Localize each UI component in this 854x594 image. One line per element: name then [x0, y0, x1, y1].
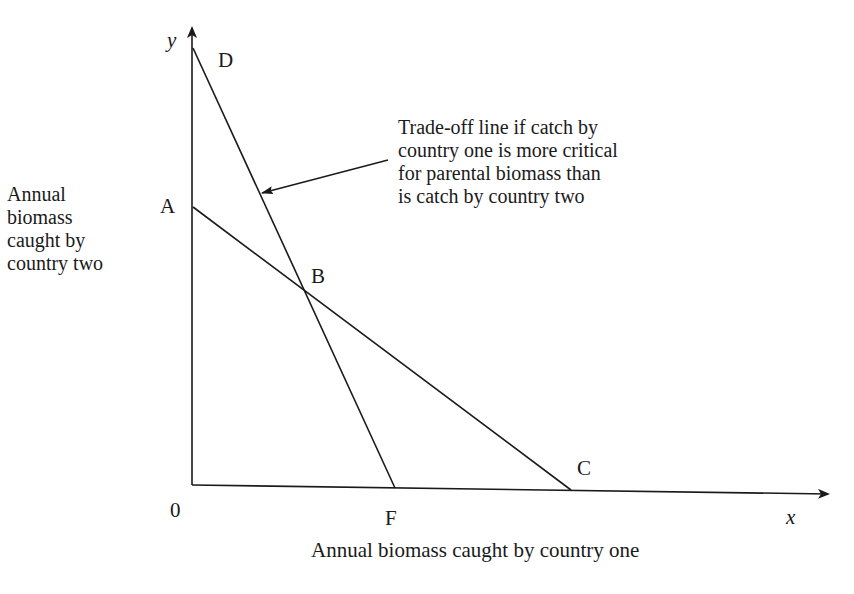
x-axis-symbol: x: [786, 507, 795, 528]
y-axis-title-line: country two: [7, 252, 103, 275]
line-ac: [193, 207, 571, 490]
origin-label: 0: [170, 500, 181, 521]
point-label-d: D: [218, 50, 233, 71]
trade-off-diagram: y D A B C 0 F x Annual biomass caught by…: [0, 0, 854, 594]
annotation-line: is catch by country two: [398, 185, 618, 208]
annotation-text: Trade-off line if catch by country one i…: [398, 116, 618, 208]
y-axis-title: Annual biomass caught by country two: [7, 183, 103, 275]
point-label-f: F: [385, 508, 397, 529]
point-label-c: C: [577, 458, 591, 479]
annotation-line: for parental biomass than: [398, 162, 618, 185]
point-label-b: B: [311, 266, 325, 287]
x-axis-title: Annual biomass caught by country one: [311, 540, 639, 561]
annotation-line: Trade-off line if catch by: [398, 116, 618, 139]
line-df: [193, 48, 395, 488]
annotation-arrow: [262, 160, 388, 193]
annotation-line: country one is more critical: [398, 139, 618, 162]
diagram-canvas: [0, 0, 854, 594]
y-axis-title-line: caught by: [7, 229, 103, 252]
x-axis: [192, 485, 828, 494]
point-label-a: A: [160, 196, 175, 217]
y-axis-title-line: Annual: [7, 183, 103, 206]
y-axis-symbol: y: [167, 30, 176, 51]
y-axis-title-line: biomass: [7, 206, 103, 229]
